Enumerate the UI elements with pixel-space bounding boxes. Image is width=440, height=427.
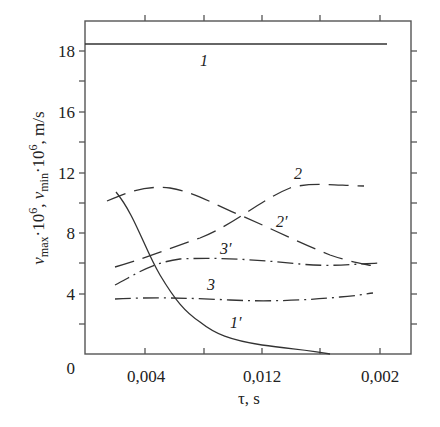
curve-2-prime: [107, 187, 378, 267]
y-axis-title: vmax·106, vmin·106, m/s: [26, 111, 51, 264]
y-title-units: , m/s: [29, 111, 48, 144]
curve-label-3-prime: 3′: [219, 240, 232, 257]
y-axis-ticks-left: [79, 51, 85, 324]
curve-3-prime: [115, 258, 378, 285]
y-tick-label: 4: [67, 285, 76, 304]
y-tick-label: 18: [58, 42, 75, 61]
plot-frame: [85, 21, 411, 354]
curve-3: [115, 293, 373, 301]
x-axis-ticks-bottom: [145, 348, 380, 354]
y-tick-label: 8: [67, 224, 76, 243]
curve-label-2-prime: 2′: [276, 213, 288, 230]
x-tick-label: 0,004: [127, 367, 166, 386]
curve-2: [115, 184, 364, 267]
x-tick-label: 0,002: [361, 367, 399, 386]
y-title-mult2: ·10: [29, 150, 48, 173]
x-tick-label: 0,012: [243, 367, 281, 386]
x-axis-title: τ, s: [238, 389, 260, 408]
y-title-vmin-sub: min: [37, 173, 51, 192]
y-title-mult: ·10: [29, 214, 48, 237]
curve-label-2: 2: [294, 165, 302, 182]
line-chart: 18 16 12 8 4 0 0,004 0,012 0,002 τ, s vm…: [0, 0, 440, 427]
curve-1-prime: [116, 192, 330, 354]
y-tick-label: 16: [58, 103, 75, 122]
y-title-vmin: , v: [29, 191, 48, 208]
x-axis-ticks-top: [145, 15, 380, 21]
y-title-vmax-sub: max: [37, 236, 51, 257]
curve-label-3: 3: [206, 276, 215, 293]
y-tick-label: 0: [67, 359, 76, 378]
y-axis-ticks-right: [411, 51, 417, 324]
y-tick-label: 12: [58, 164, 75, 183]
curve-label-1: 1: [200, 52, 208, 69]
curve-label-1-prime: 1′: [230, 314, 242, 331]
